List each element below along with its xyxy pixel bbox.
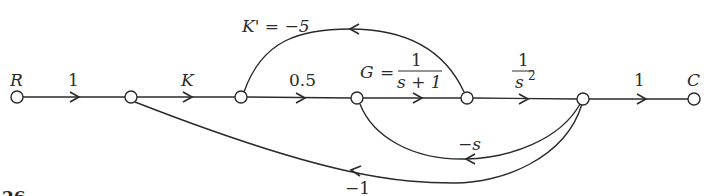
- gain-label-n4-n5-exp: 2: [528, 69, 536, 83]
- gain-label-n5-n1-feedback: −1: [345, 178, 370, 196]
- gain-label-n5-n3-feedback: −s: [458, 134, 481, 154]
- node-C: [688, 93, 700, 105]
- gain-label-n3-n4-num: 1: [411, 50, 422, 70]
- signal-flow-graph: R C 1 K 0.5 G = 1 s + 1 1 s 2 1 K' = −5 …: [0, 0, 709, 196]
- node-n4: [461, 92, 473, 104]
- gain-label-n3-n4-eq: =: [380, 62, 394, 82]
- edge-n2-n3: [247, 97, 351, 98]
- node-n3: [351, 92, 363, 104]
- node-n1: [125, 91, 137, 103]
- gain-label-n3-n4-name: G: [360, 62, 374, 82]
- gain-label-n2-n3: 0.5: [289, 70, 316, 90]
- node-label-R: R: [9, 70, 23, 90]
- figure-number-fragment: 26: [2, 187, 26, 196]
- arrow-n5-n1-feedback: [351, 166, 361, 176]
- gain-label-n4-n5-num: 1: [518, 50, 529, 70]
- node-label-C: C: [687, 70, 700, 90]
- gain-label-n5-C: 1: [634, 70, 645, 90]
- node-R: [11, 91, 23, 103]
- node-n5: [577, 93, 589, 105]
- edge-n5-n1-feedback: [135, 102, 582, 183]
- node-n2: [235, 91, 247, 103]
- gain-label-n1-n2: K: [180, 70, 195, 90]
- gain-label-n3-n4-den: s + 1: [397, 72, 442, 92]
- gain-label-R-n1: 1: [68, 70, 79, 90]
- gain-label-n4-n2-feedback: K' = −5: [241, 16, 310, 36]
- gain-label-n4-n5-den: s: [515, 72, 524, 92]
